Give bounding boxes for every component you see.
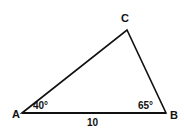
vertex-label-c: C [121, 13, 129, 24]
angle-label-b: 65° [138, 101, 153, 111]
geometry-diagram: A B C 40° 65° 10 [0, 0, 184, 132]
side-length-label-ab: 10 [87, 118, 98, 128]
angle-label-a: 40° [33, 101, 48, 111]
vertex-label-b: B [170, 110, 178, 121]
vertex-label-a: A [12, 109, 20, 120]
triangle-shape [0, 0, 184, 132]
